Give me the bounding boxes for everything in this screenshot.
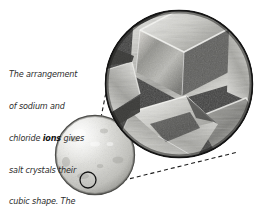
figure-caption: The arrangement of sodium and chloride i…	[9, 48, 87, 210]
caption-line-5: cubic shape. The	[9, 196, 87, 207]
caption-line-4: salt crystals their	[9, 165, 87, 176]
caption-line-1: The arrangement	[9, 69, 87, 80]
caption-term-ions: ions	[43, 133, 61, 143]
caption-line-3-tail: gives	[61, 133, 84, 143]
caption-line-3-lead: chloride	[9, 133, 43, 143]
salt-crystal-figure: The arrangement of sodium and chloride i…	[0, 0, 269, 210]
caption-line-2: of sodium and	[9, 101, 87, 112]
caption-line-3: chloride ions gives	[9, 133, 87, 144]
